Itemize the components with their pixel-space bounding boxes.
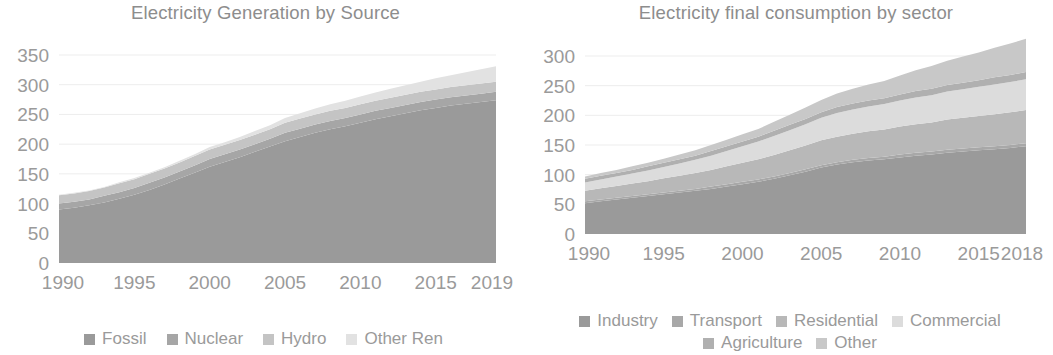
y-axis-tick: 150 — [543, 135, 575, 156]
x-axis-tick: 1995 — [113, 272, 155, 293]
x-axis-tick: 1990 — [568, 243, 610, 264]
x-axis-tick: 2000 — [189, 272, 231, 293]
y-axis-tick: 50 — [554, 194, 575, 215]
legend-swatch-icon — [346, 334, 357, 345]
y-axis-tick: 250 — [17, 104, 49, 125]
legend-swatch-icon — [816, 338, 827, 349]
legend-item-residential[interactable]: Residential — [776, 311, 878, 331]
y-axis-tick: 300 — [17, 75, 49, 96]
y-axis-tick: 150 — [17, 164, 49, 185]
legend-label: Hydro — [281, 329, 326, 349]
legend-item-nuclear[interactable]: Nuclear — [167, 329, 244, 349]
legend-consumption: IndustryTransportResidentialCommercialAg… — [527, 311, 1053, 353]
legend-swatch-icon — [579, 316, 590, 327]
legend-swatch-icon — [263, 334, 274, 345]
legend-item-industry[interactable]: Industry — [579, 311, 657, 331]
y-axis-tick: 200 — [543, 105, 575, 126]
legend-label: Agriculture — [721, 333, 802, 353]
legend-item-commercial[interactable]: Commercial — [892, 311, 1001, 331]
y-axis-tick: 250 — [543, 76, 575, 97]
x-axis-tick: 2015 — [958, 243, 1000, 264]
x-axis-tick: 2010 — [879, 243, 921, 264]
legend-swatch-icon — [703, 338, 714, 349]
legend-swatch-icon — [892, 316, 903, 327]
legend-label: Residential — [794, 311, 878, 331]
chart-panel-consumption: Electricity final consumption by sector … — [527, 0, 1053, 355]
x-axis-tick: 2005 — [264, 272, 306, 293]
legend-label: Other — [834, 333, 877, 353]
legend-label: Nuclear — [185, 329, 244, 349]
y-axis-tick: 0 — [564, 224, 575, 245]
x-axis-tick: 2015 — [415, 272, 457, 293]
x-axis-tick: 1995 — [643, 243, 685, 264]
y-axis-tick: 350 — [17, 45, 49, 66]
legend-swatch-icon — [672, 316, 683, 327]
legend-label: Transport — [690, 311, 762, 331]
legend-label: Industry — [597, 311, 657, 331]
y-axis-tick: 200 — [17, 134, 49, 155]
x-axis-tick: 2000 — [721, 243, 763, 264]
legend-item-transport[interactable]: Transport — [672, 311, 762, 331]
legend-label: Other Ren — [364, 329, 442, 349]
consumption-area-chart: 0501001502002503001990199520002005201020… — [527, 0, 1053, 355]
legend-item-fossil[interactable]: Fossil — [84, 329, 146, 349]
y-axis-tick: 50 — [28, 223, 49, 244]
legend-generation: FossilNuclearHydroOther Ren — [0, 329, 527, 349]
x-axis-tick: 2005 — [800, 243, 842, 264]
y-axis-tick: 100 — [17, 194, 49, 215]
generation-area-chart: 0501001502002503003501990199520002005201… — [0, 0, 527, 355]
legend-item-other-ren[interactable]: Other Ren — [346, 329, 442, 349]
legend-swatch-icon — [167, 334, 178, 345]
y-axis-tick: 300 — [543, 46, 575, 67]
x-axis-tick: 2018 — [1001, 243, 1043, 264]
legend-swatch-icon — [776, 316, 787, 327]
legend-label: Commercial — [910, 311, 1001, 331]
legend-item-other[interactable]: Other — [816, 333, 877, 353]
x-axis-tick: 2010 — [339, 272, 381, 293]
legend-item-hydro[interactable]: Hydro — [263, 329, 326, 349]
y-axis-tick: 100 — [543, 165, 575, 186]
legend-label: Fossil — [102, 329, 146, 349]
y-axis-tick: 0 — [38, 253, 49, 274]
legend-swatch-icon — [84, 334, 95, 345]
legend-item-agriculture[interactable]: Agriculture — [703, 333, 802, 353]
charts-row: Electricity Generation by Source 0501001… — [0, 0, 1053, 355]
chart-panel-generation: Electricity Generation by Source 0501001… — [0, 0, 527, 355]
x-axis-tick: 1990 — [42, 272, 84, 293]
x-axis-tick: 2019 — [471, 272, 513, 293]
